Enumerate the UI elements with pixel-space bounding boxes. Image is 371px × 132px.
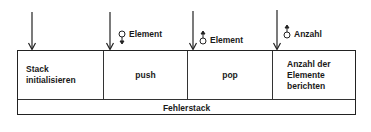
call-arrow-init bbox=[29, 12, 36, 50]
call-arrow-pop bbox=[190, 11, 197, 50]
call-arrow-push bbox=[107, 12, 114, 50]
data-couple-label: Anzahl bbox=[294, 29, 322, 39]
call-arrow-count bbox=[274, 10, 281, 50]
module-label: Stack bbox=[26, 64, 76, 75]
module-stack-initialisieren: Stack initialisieren bbox=[18, 51, 103, 99]
data-couple-up-icon bbox=[200, 31, 206, 44]
module-label: pop bbox=[222, 70, 238, 81]
module-label: push bbox=[135, 70, 155, 81]
module-label: berichten bbox=[287, 81, 330, 92]
module-push: push bbox=[103, 51, 187, 99]
module-label: Elemente bbox=[287, 70, 330, 81]
data-couple-up-icon bbox=[284, 25, 290, 38]
data-couple-down-icon bbox=[119, 31, 125, 44]
module-anzahl-berichten: Anzahl der Elemente berichten bbox=[272, 51, 355, 99]
shared-module-label: Fehlerstack bbox=[163, 103, 210, 113]
module-label: Anzahl der bbox=[287, 59, 330, 70]
module-box: Stack initialisieren push pop Anzahl der… bbox=[17, 50, 356, 115]
module-pop: pop bbox=[187, 51, 272, 99]
data-couple-label: Element bbox=[129, 29, 162, 39]
module-fehlerstack: Fehlerstack bbox=[18, 99, 355, 115]
module-label: initialisieren bbox=[26, 75, 76, 86]
data-couple-label: Element bbox=[210, 35, 243, 45]
